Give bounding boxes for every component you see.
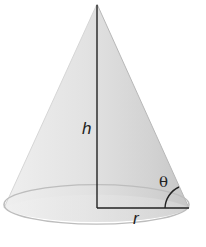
- cone-diagram: h θ r: [0, 0, 206, 247]
- height-label: h: [82, 119, 91, 138]
- angle-label: θ: [159, 173, 168, 191]
